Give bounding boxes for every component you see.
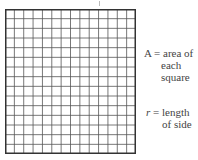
length-equals: = xyxy=(153,106,159,118)
area-text-line1: area of xyxy=(163,47,193,59)
length-symbol: r xyxy=(146,106,150,118)
area-text-line2: each xyxy=(161,59,181,71)
area-text-line3: square xyxy=(161,71,190,83)
square-grid xyxy=(5,9,136,154)
length-text-line1: length xyxy=(162,106,190,118)
length-label: r = length xyxy=(146,106,190,118)
area-symbol: A xyxy=(144,47,151,59)
area-label: A = area of xyxy=(144,47,193,59)
length-text-line2: of side xyxy=(162,118,192,130)
top-tick-mark xyxy=(99,1,100,6)
area-equals: = xyxy=(154,47,160,59)
